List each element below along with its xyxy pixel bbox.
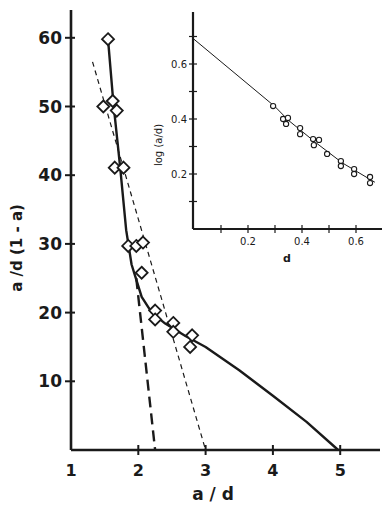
main-y-tick-label: 30	[38, 234, 62, 254]
diamond-marker	[102, 33, 114, 45]
main-x-tick-label: 3	[200, 461, 211, 480]
circle-marker	[298, 132, 303, 137]
inset-y-tick-label: 0.6	[171, 59, 187, 70]
circle-marker	[367, 174, 372, 179]
circle-marker	[310, 136, 315, 141]
inset-y-tick-label: 0.2	[171, 169, 187, 180]
dotted-line	[93, 62, 206, 450]
inset-x-tick-label: 0.4	[294, 236, 310, 247]
circle-marker	[325, 151, 330, 156]
main-x-tick-label: 5	[335, 461, 346, 480]
inset-y-axis-label: log (a/d)	[153, 124, 164, 166]
inset-x-axis-label: d	[283, 252, 291, 265]
chart-figure: 12345102030405060 0.20.40.60.20.40.6 a /…	[0, 0, 390, 506]
circle-marker	[367, 180, 372, 185]
diamond-marker	[136, 267, 148, 279]
diamond-marker	[167, 326, 179, 338]
diamond-marker	[149, 313, 161, 325]
main-y-tick-label: 40	[38, 165, 62, 185]
circle-marker	[283, 121, 288, 126]
main-x-tick-label: 2	[133, 461, 144, 480]
inset-plot-area	[194, 39, 375, 185]
main-x-tick-label: 1	[65, 461, 76, 480]
main-y-tick-label: 50	[38, 97, 62, 117]
inset-axes: 0.20.40.60.20.40.6	[171, 12, 382, 247]
inset-y-tick-label: 0.4	[171, 114, 187, 125]
diamond-marker	[184, 341, 196, 353]
circle-marker	[311, 143, 316, 148]
circle-marker	[298, 125, 303, 130]
circle-marker	[316, 137, 321, 142]
main-y-tick-label: 20	[38, 303, 62, 323]
diamond-marker	[186, 329, 198, 341]
circle-marker	[338, 163, 343, 168]
inset-x-tick-label: 0.6	[348, 236, 364, 247]
circle-marker	[352, 171, 357, 176]
main-x-axis-label: a / d	[192, 484, 234, 504]
inset-fit-line	[194, 39, 375, 182]
main-x-tick-label: 4	[267, 461, 278, 480]
main-y-axis-label: a /d (1 - a)	[8, 204, 26, 292]
main-axes: 12345102030405060	[38, 10, 380, 480]
main-y-tick-label: 10	[38, 371, 62, 391]
circle-marker	[271, 103, 276, 108]
circle-marker	[285, 115, 290, 120]
inset-x-tick-label: 0.2	[240, 236, 256, 247]
main-y-tick-label: 60	[38, 28, 62, 48]
